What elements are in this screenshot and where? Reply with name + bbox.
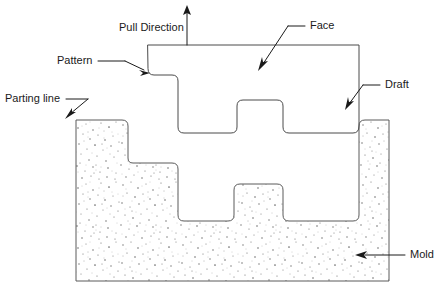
mold-block (76, 120, 389, 281)
parting-line-arrow-line (70, 99, 88, 114)
pattern-part (148, 45, 359, 133)
face-label: Face (310, 19, 334, 31)
pattern-leader (98, 61, 150, 76)
draft-arrow-line (349, 85, 363, 104)
pattern-leader-arrow-line (125, 61, 144, 70)
face-leader (258, 26, 305, 71)
mold-label: Mold (410, 248, 434, 260)
draft-label: Draft (385, 78, 409, 90)
parting-line-arrow-head (65, 108, 76, 119)
parting-line-leader (65, 99, 88, 119)
pattern-outline (148, 45, 359, 133)
pull-direction-arrow (183, 5, 191, 45)
parting-line-label: Parting line (5, 92, 60, 104)
draft-leader (345, 85, 380, 110)
pull-direction-label: Pull Direction (119, 21, 184, 33)
casting-mold-diagram: Pull Direction Pattern Parting line Face… (0, 0, 438, 290)
pattern-label: Pattern (57, 54, 92, 66)
mold-outline (76, 120, 389, 281)
